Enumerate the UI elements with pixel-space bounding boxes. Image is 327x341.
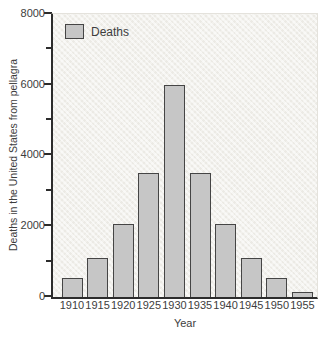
bar-1925 — [138, 173, 159, 297]
bar-1930 — [164, 85, 185, 297]
legend-swatch — [65, 24, 84, 39]
x-tick-label-1955: 1955 — [285, 299, 319, 311]
y-tick-label-6000: 6000 — [11, 78, 45, 90]
y-tick-label-8000: 8000 — [11, 7, 45, 19]
bar-1950 — [266, 278, 287, 297]
bar-1955 — [292, 292, 313, 297]
bar-1945 — [241, 258, 262, 297]
y-tick-label-4000: 4000 — [11, 148, 45, 160]
y-tick-label-0: 0 — [11, 290, 45, 302]
bar-1915 — [87, 258, 108, 297]
pellagra-deaths-bar-chart: Deaths in the United States from pellagr… — [0, 0, 327, 341]
bar-1910 — [62, 278, 83, 297]
bar-1940 — [215, 224, 236, 297]
plot-area — [51, 13, 318, 299]
bar-1935 — [190, 173, 211, 297]
legend: Deaths — [65, 24, 129, 39]
bar-1920 — [113, 224, 134, 297]
y-tick-label-2000: 2000 — [11, 219, 45, 231]
legend-label: Deaths — [91, 25, 129, 39]
x-axis-title: Year — [105, 317, 265, 329]
